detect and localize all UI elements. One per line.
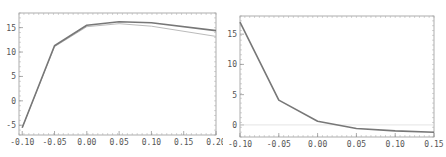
x-tick-label: -0.05 <box>42 138 66 147</box>
x-tick-label: 0.00 <box>77 138 96 147</box>
x-tick-label: -0.05 <box>267 140 291 149</box>
x-tick-label: 0.05 <box>109 138 128 147</box>
right-chart-canvas: -0.10-0.050.000.050.100.15051015 <box>223 0 446 157</box>
line-series-dark <box>22 22 216 128</box>
x-tick-label: 0.15 <box>174 138 193 147</box>
x-tick-label: 0.10 <box>386 140 405 149</box>
x-tick-label: 0.10 <box>142 138 161 147</box>
y-tick-label: 15 <box>6 24 16 33</box>
x-tick-label: -0.10 <box>10 138 34 147</box>
y-tick-label: 10 <box>227 60 237 69</box>
plot-frame <box>240 16 434 137</box>
left-chart-canvas: -0.10-0.050.000.050.100.150.20-5051015 <box>0 0 223 157</box>
y-tick-label: -5 <box>6 121 16 130</box>
line-series-main <box>240 22 434 132</box>
y-tick-label: 10 <box>6 48 16 57</box>
x-tick-label: 0.00 <box>308 140 327 149</box>
y-tick-label: 5 <box>11 72 16 81</box>
line-series-light <box>22 24 216 128</box>
y-tick-label: 0 <box>232 121 237 130</box>
right-line-chart: -0.10-0.050.000.050.100.15051015 <box>223 0 446 157</box>
x-tick-label: 0.15 <box>424 140 443 149</box>
x-tick-label: 0.05 <box>347 140 366 149</box>
x-tick-label: -0.10 <box>228 140 252 149</box>
x-tick-label: 0.20 <box>206 138 223 147</box>
y-tick-label: 5 <box>232 91 237 100</box>
y-tick-label: 0 <box>11 97 16 106</box>
left-line-chart: -0.10-0.050.000.050.100.150.20-5051015 <box>0 0 223 157</box>
y-tick-label: 15 <box>227 30 237 39</box>
